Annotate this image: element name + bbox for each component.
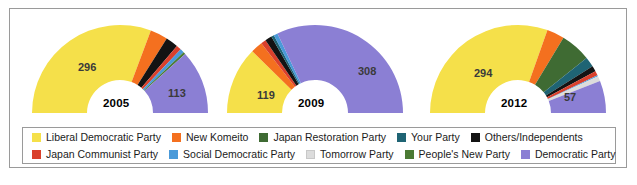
legend-swatch-icon (259, 133, 268, 142)
legend-swatch-icon (32, 150, 41, 159)
legend-item-label: Liberal Democratic Party (46, 132, 161, 143)
legend-swatch-icon (397, 133, 406, 142)
seat-count-dpj: 113 (168, 87, 186, 99)
legend-item-label: New Komeito (186, 132, 248, 143)
legend-item[interactable]: Tomorrow Party (306, 149, 394, 160)
legend-item[interactable]: Japan Restoration Party (259, 132, 386, 143)
legend-item[interactable]: Social Democratic Party (169, 149, 295, 160)
seat-count-dpj: 308 (358, 65, 376, 77)
legend-item[interactable]: Others/Independents (471, 132, 583, 143)
legend-item-label: Tomorrow Party (320, 149, 394, 160)
year-label-2005: 2005 (103, 97, 129, 109)
legend-item[interactable]: People's New Party (405, 149, 510, 160)
legend-item-label: Others/Independents (485, 132, 583, 143)
legend-item-label: Democratic Party (535, 149, 616, 160)
legend-item[interactable]: Japan Communist Party (32, 149, 158, 160)
seat-diagram-2005: 2961132005 (20, 13, 220, 121)
legend-swatch-icon (471, 133, 480, 142)
seat-count-dpj: 57 (564, 91, 576, 103)
legend-item[interactable]: New Komeito (172, 132, 248, 143)
legend-swatch-icon (32, 133, 41, 142)
legend: Liberal Democratic PartyNew KomeitoJapan… (22, 127, 616, 164)
legend-item-label: Japan Restoration Party (273, 132, 386, 143)
chart-frame: 29611320051193082009294572012 Liberal De… (9, 8, 627, 168)
legend-item[interactable]: Democratic Party (521, 149, 616, 160)
legend-item-label: Japan Communist Party (46, 149, 158, 160)
year-label-2012: 2012 (501, 97, 527, 109)
seat-count-ldp: 296 (78, 61, 96, 73)
year-label-2009: 2009 (298, 97, 324, 109)
legend-swatch-icon (172, 133, 181, 142)
legend-item-label: Your Party (411, 132, 460, 143)
legend-row-2: Japan Communist PartySocial Democratic P… (23, 146, 615, 163)
seat-diagram-2012: 294572012 (418, 13, 622, 121)
seat-diagrams-container: 29611320051193082009294572012 (10, 9, 628, 121)
legend-row-1: Liberal Democratic PartyNew KomeitoJapan… (23, 129, 615, 146)
legend-item-label: People's New Party (419, 149, 510, 160)
legend-item[interactable]: Your Party (397, 132, 460, 143)
seat-count-ldp: 119 (257, 89, 275, 101)
legend-swatch-icon (169, 150, 178, 159)
legend-item-label: Social Democratic Party (183, 149, 295, 160)
legend-swatch-icon (405, 150, 414, 159)
slice-dpj (277, 25, 403, 113)
figure-root: 29611320051193082009294572012 Liberal De… (0, 0, 637, 185)
legend-swatch-icon (306, 150, 315, 159)
seat-diagram-2009: 1193082009 (215, 13, 415, 121)
legend-item[interactable]: Liberal Democratic Party (32, 132, 161, 143)
legend-swatch-icon (521, 150, 530, 159)
seat-count-ldp: 294 (474, 67, 492, 79)
